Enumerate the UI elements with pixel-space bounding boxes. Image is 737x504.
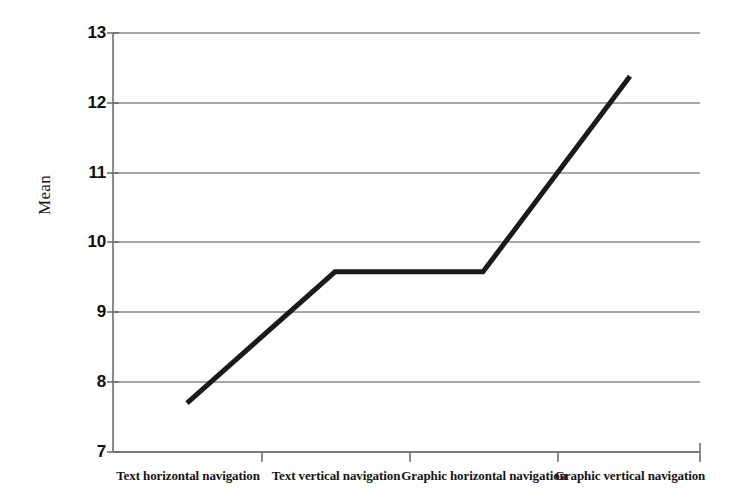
x-category-label-text-vertical-navigation: Text vertical navigation <box>272 468 401 484</box>
x-category-label-graphic-vertical-navigation: Graphic vertical navigation <box>555 468 705 484</box>
plot-area <box>0 0 737 504</box>
chart-page: Mean 13 12 11 10 9 8 7 <box>0 0 737 504</box>
x-axis-category-labels: Text horizontal navigation Text vertical… <box>0 468 737 494</box>
x-category-label-graphic-horizontal-navigation: Graphic horizontal navigation <box>401 468 566 484</box>
x-category-label-text-horizontal-navigation: Text horizontal navigation <box>116 468 260 484</box>
data-series-line <box>187 76 630 403</box>
x-axis-ticks <box>262 452 700 462</box>
